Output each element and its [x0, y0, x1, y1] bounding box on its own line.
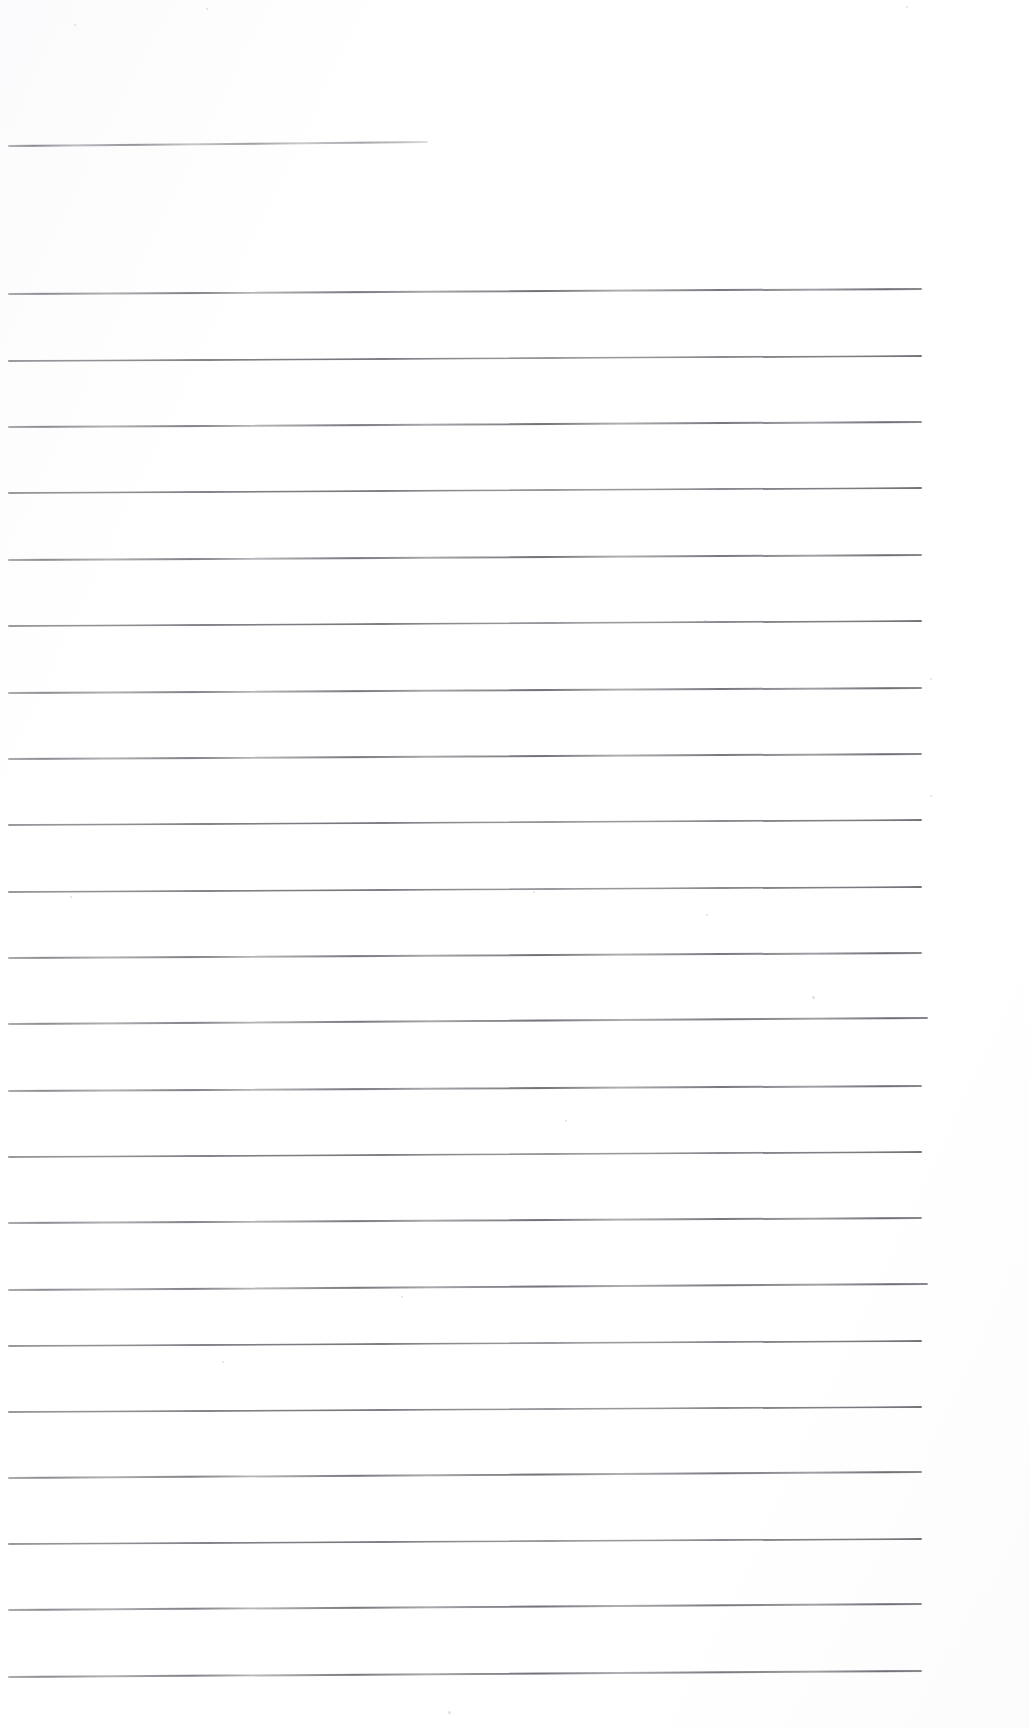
rule-stroke: [8, 421, 922, 428]
rule-stroke: [8, 355, 922, 362]
scan-speck: [70, 896, 72, 898]
rule-stroke: [8, 1603, 922, 1611]
rule-line: [8, 1017, 928, 1025]
rule-stroke: [8, 687, 922, 694]
rule-line: [8, 288, 922, 295]
scan-speck: [906, 6, 908, 8]
rule-stroke: [8, 1406, 922, 1413]
rule-line: [8, 1603, 922, 1611]
scan-speck: [565, 1120, 567, 1122]
rule-line: [8, 819, 922, 826]
rule-line: [8, 886, 922, 893]
rule-line: [8, 1406, 922, 1413]
scanned-page: [0, 0, 1029, 1728]
scan-speck: [74, 24, 76, 26]
rule-line: [8, 1670, 922, 1678]
rule-line: [8, 687, 922, 694]
scan-speck: [704, 620, 707, 623]
rule-line: [8, 1340, 922, 1347]
rule-stroke: [8, 1151, 922, 1158]
scan-speck: [206, 8, 208, 10]
scan-speck: [706, 914, 708, 916]
rule-line: [8, 753, 922, 760]
rule-line: [8, 554, 922, 561]
rule-stroke: [8, 620, 922, 627]
rule-stroke: [8, 1538, 922, 1545]
rule-line: [8, 952, 922, 959]
rule-stroke: [8, 1085, 922, 1092]
scan-speck: [812, 996, 815, 999]
rule-line: [8, 487, 922, 494]
rule-line: [8, 1471, 922, 1479]
scan-speck: [930, 678, 932, 680]
rule-line: [8, 1283, 928, 1291]
rule-stroke: [8, 1217, 922, 1224]
rule-stroke: [8, 554, 922, 561]
scan-speck: [448, 1711, 451, 1714]
rule-stroke: [8, 288, 922, 295]
scan-speck: [401, 1296, 403, 1298]
rule-stroke: [8, 886, 922, 893]
rule-stroke: [8, 1471, 922, 1479]
rule-line: [8, 620, 922, 627]
rule-line: [8, 1151, 922, 1158]
rule-line: [8, 1085, 922, 1092]
rule-stroke: [8, 487, 922, 494]
rule-stroke: [8, 1340, 922, 1347]
header-rule: [8, 141, 428, 147]
rule-line: [8, 421, 922, 428]
rule-stroke: [8, 1017, 928, 1025]
rule-stroke: [8, 819, 922, 826]
rule-stroke: [8, 753, 922, 760]
rule-line: [8, 355, 922, 362]
rule-stroke: [8, 1670, 922, 1678]
scan-speck: [222, 1361, 224, 1363]
rule-stroke: [8, 141, 428, 147]
paper-sheet: [0, 0, 1029, 1728]
rule-line: [8, 1538, 922, 1545]
rule-line: [8, 1217, 922, 1224]
scan-speck: [533, 891, 535, 893]
rule-stroke: [8, 1283, 928, 1291]
rule-stroke: [8, 952, 922, 959]
scan-speck: [930, 795, 932, 797]
